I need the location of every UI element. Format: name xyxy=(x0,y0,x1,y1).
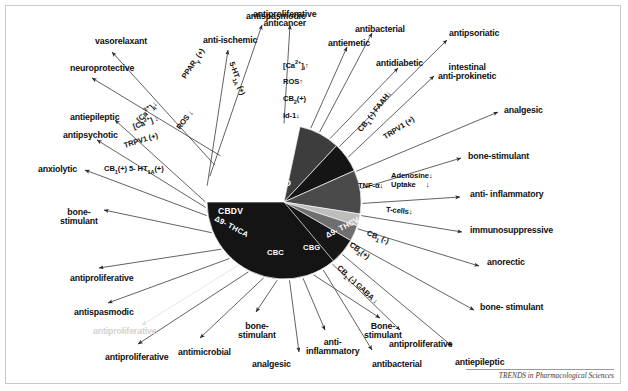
effect-anti-ischemic: anti-ischemic xyxy=(203,36,257,45)
pie-label-cbdv: CBDV xyxy=(218,206,243,216)
effect-arrow xyxy=(311,47,347,128)
effect-antibacterial-top: antibacterial xyxy=(355,25,405,34)
effect-anorectic: anorectic xyxy=(487,258,525,267)
effect-arrow xyxy=(356,112,498,171)
effect-antiproliferative-left-1: antiproliferative xyxy=(70,274,133,283)
effect-arrow xyxy=(256,280,277,312)
effect-antibacterial-bottom: antibacterial xyxy=(372,360,422,369)
pie-label-cbc: CBC xyxy=(267,248,284,257)
mechanism-ca-up: [Ca2+]i↑ xyxy=(283,59,309,71)
effect-vasorelaxant: vasorelaxant xyxy=(95,37,147,46)
effect-antiepileptic-bottom: antiepileptic xyxy=(455,358,504,367)
effect-anti-inflammatory-right: anti- inflammatory xyxy=(470,190,544,199)
effect-arrow xyxy=(361,216,462,232)
effect-immunosuppressive: immunosuppressive xyxy=(470,226,553,235)
mechanism-adenosine-uptake: Adenosine↓Uptake ↓ xyxy=(391,172,433,189)
effect-bone-stimulant-left: bone-stimulant xyxy=(60,208,98,226)
effect-neuroprotective: neuroprotective xyxy=(70,64,134,73)
effect-arrow xyxy=(104,210,212,233)
effect-antiproliferative-anticancer: antiproliferativeanticancer xyxy=(253,10,316,28)
effect-antidiabetic: antidiabetic xyxy=(376,59,423,68)
effect-arrow xyxy=(115,120,206,202)
effect-arrow xyxy=(210,25,262,176)
pie-label-cbg: CBG xyxy=(303,243,320,252)
effect-bone-stimulant-right-1: bone-stimulant xyxy=(468,152,529,161)
effect-antimicrobial: antimicrobial xyxy=(178,348,231,357)
effect-antipsychotic: antipsychotic xyxy=(63,131,118,140)
effect-arrow xyxy=(207,50,228,186)
mechanism-cb2-plus: CB2(+) xyxy=(283,94,306,105)
effect-arrow xyxy=(99,249,221,268)
effect-antiepileptic-left: antiepileptic xyxy=(70,113,119,122)
effect-arrow xyxy=(363,197,461,203)
effect-antiproliferative-left-2: antiproliferative xyxy=(105,353,168,362)
effect-bone-stimulant-right-2: bone- stimulant xyxy=(480,303,543,312)
effect-antiproliferative-faded: antiproliferative xyxy=(93,327,156,336)
pie-label-cbd: CBD xyxy=(272,178,291,188)
effect-anxiolytic: anxiolytic xyxy=(38,165,77,174)
figure-canvas: CBD CBDV Δ9- THCA CBC CBG Δ9- THCV antis… xyxy=(0,0,628,391)
effect-intestinal-anti-prokinetic: intestinalanti-prokinetic xyxy=(438,63,496,81)
effect-bone-stimulant-bottom-2: Bone-stimulant xyxy=(364,322,402,340)
effect-analgesic-right: analgesic xyxy=(504,106,543,115)
effect-antiemetic: antiemetic xyxy=(328,39,370,48)
effect-arrow xyxy=(284,25,290,124)
mechanism-tnf-alpha-down: TNF-α↓ xyxy=(358,181,383,190)
journal-credit: TRENDS in Pharmacological Sciences xyxy=(499,371,614,380)
effect-antiproliferative-bottom: antiproliferative xyxy=(389,340,452,349)
effect-antipsoriatic: antipsoriatic xyxy=(449,29,499,38)
mechanism-cb1-5ht1a: CB1(+) 5- HT1A(+) xyxy=(104,164,164,175)
effect-arrow xyxy=(303,278,325,330)
effect-anti-inflammatory-bottom: anti-inflammatory xyxy=(306,338,359,356)
credit-divider xyxy=(466,369,614,370)
mechanism-id1-down: Id-1↓ xyxy=(283,111,300,120)
effect-arrow xyxy=(290,280,300,352)
effect-analgesic-bottom: analgesic xyxy=(252,360,291,369)
mechanism-ros-up: ROS↑ xyxy=(283,77,303,86)
effect-arrow xyxy=(348,76,434,157)
effect-antispasmodic-left: antispasmodic xyxy=(74,308,134,317)
effect-bone-stimulant-bottom-1: bone-stimulant xyxy=(238,322,276,340)
effect-arrow xyxy=(85,170,207,216)
